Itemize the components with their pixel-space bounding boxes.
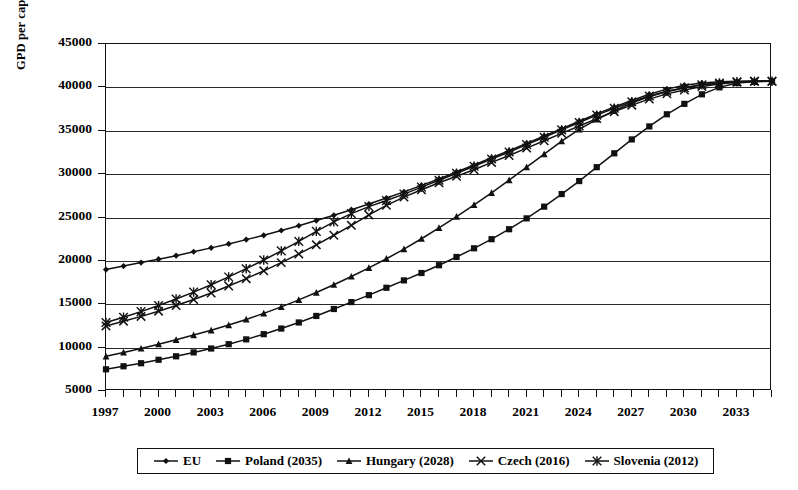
x-axis-tick-label: 2015 (407, 404, 434, 420)
data-point-diamond (173, 253, 179, 259)
data-point-cross (207, 289, 215, 297)
data-point-triangle (365, 264, 372, 271)
series-layer (106, 44, 772, 391)
x-axis-tick-mark (350, 390, 351, 397)
legend-item-slovenia-2012[interactable]: Slovenia (2012) (584, 453, 699, 469)
y-axis-tick-mark (98, 173, 105, 174)
x-axis-tick-mark (771, 390, 772, 397)
x-axis-tick-mark (193, 390, 194, 397)
data-point-diamond (278, 227, 284, 233)
data-point-square (225, 458, 231, 464)
data-point-square (296, 319, 302, 325)
data-point-square (541, 204, 547, 210)
legend-item-czech-2016[interactable]: Czech (2016) (468, 453, 570, 469)
x-axis-tick-label: 2009 (302, 404, 329, 420)
y-axis-tick-mark (98, 86, 105, 87)
x-axis-tick-mark (701, 390, 702, 397)
data-point-cross (330, 231, 338, 239)
data-point-square (629, 136, 635, 142)
legend-item-poland-2035[interactable]: Poland (2035) (215, 453, 322, 469)
y-axis-tick-mark (98, 43, 105, 44)
y-axis-tick-label: 45000 (0, 43, 92, 59)
data-point-asterisk (330, 217, 339, 226)
x-axis-tick-mark (596, 390, 597, 397)
x-axis-tick-mark (753, 390, 754, 397)
data-point-square (453, 254, 459, 260)
data-point-triangle (471, 201, 478, 208)
data-point-triangle (383, 255, 390, 262)
data-point-square (664, 111, 670, 117)
legend-label: Slovenia (2012) (614, 453, 699, 469)
x-axis-tick-mark (543, 390, 544, 397)
x-axis-tick-mark (526, 390, 527, 397)
data-point-square (173, 353, 179, 359)
data-point-cross (277, 258, 285, 266)
series-4 (102, 77, 777, 328)
chart-legend: EUPoland (2035)Hungary (2028)Czech (2016… (137, 448, 714, 474)
x-axis-tick-mark (385, 390, 386, 397)
x-axis-tick-mark (298, 390, 299, 397)
x-axis-tick-label: 2021 (512, 404, 539, 420)
x-axis-tick-mark (245, 390, 246, 397)
x-axis-tick-mark (210, 390, 211, 397)
legend-item-eu[interactable]: EU (153, 453, 201, 469)
data-point-diamond (243, 237, 249, 243)
y-axis-tick-label: 30000 (0, 173, 92, 189)
x-axis-tick-mark (683, 390, 684, 397)
data-point-square (646, 123, 652, 129)
legend-marker-asterisk-icon (584, 455, 610, 467)
data-point-square (366, 292, 372, 298)
data-point-asterisk (277, 246, 286, 255)
legend-item-hungary-2028[interactable]: Hungary (2028) (336, 453, 454, 469)
legend-marker-cross-icon (468, 455, 494, 467)
series-line (106, 81, 772, 326)
data-point-square (418, 270, 424, 276)
y-axis-tick-label: 40000 (0, 86, 92, 102)
data-point-cross (260, 267, 268, 275)
data-point-asterisk (347, 209, 356, 218)
y-axis-tick-label: 35000 (0, 130, 92, 146)
x-axis-tick-label: 2012 (354, 404, 381, 420)
y-axis-tick-mark (98, 217, 105, 218)
data-point-triangle (436, 224, 443, 231)
data-point-square (226, 341, 232, 347)
data-point-square (524, 215, 530, 221)
x-axis-tick-mark (718, 390, 719, 397)
data-point-cross (242, 274, 250, 282)
data-point-square (383, 285, 389, 291)
data-point-square (261, 331, 267, 337)
x-axis-tick-mark (263, 390, 264, 397)
y-axis-tick-label: 25000 (0, 217, 92, 233)
x-axis-tick-mark (403, 390, 404, 397)
data-point-diamond (226, 241, 232, 247)
data-point-triangle (453, 213, 460, 220)
series-line (106, 81, 772, 356)
data-point-cross (224, 282, 232, 290)
data-point-square (488, 236, 494, 242)
data-point-square (576, 178, 582, 184)
x-axis-tick-mark (105, 390, 106, 397)
data-point-cross (295, 250, 303, 258)
x-axis-tick-mark (280, 390, 281, 397)
x-axis-tick-mark (368, 390, 369, 397)
x-axis-tick-mark (648, 390, 649, 397)
data-point-triangle (348, 273, 355, 280)
y-axis-tick-label: 20000 (0, 260, 92, 276)
data-point-triangle (558, 138, 565, 145)
data-point-asterisk (312, 227, 321, 236)
data-point-square (208, 345, 214, 351)
data-point-asterisk (189, 287, 198, 296)
x-axis-tick-label: 2027 (617, 404, 644, 420)
data-point-square (313, 313, 319, 319)
data-point-square (278, 325, 284, 331)
x-axis-tick-label: 2024 (565, 404, 592, 420)
data-point-asterisk (365, 202, 374, 211)
x-axis-tick-mark (140, 390, 141, 397)
data-point-square (155, 357, 161, 363)
x-axis-tick-mark (175, 390, 176, 397)
data-point-triangle (401, 246, 408, 253)
x-axis-tick-mark (315, 390, 316, 397)
data-point-asterisk (172, 294, 181, 303)
x-axis-tick-label: 1997 (92, 404, 119, 420)
data-point-diamond (120, 263, 126, 269)
